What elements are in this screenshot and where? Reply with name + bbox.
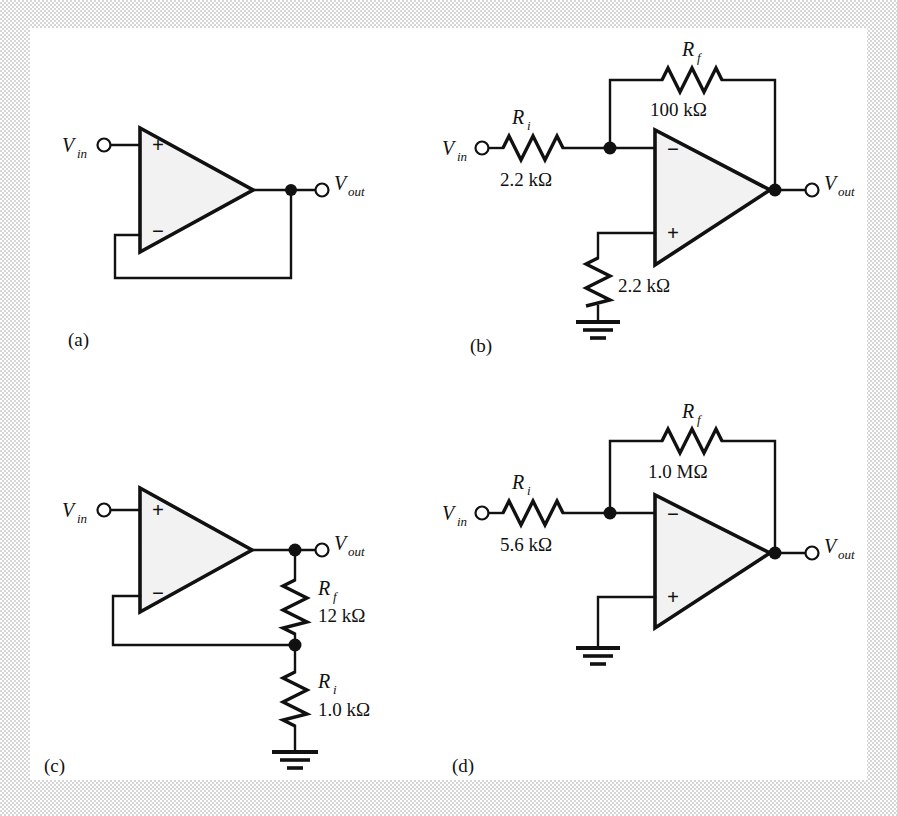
panel-b-inverting-pin-sign: − [667,137,679,161]
panel-b-resistor-ground[interactable] [586,258,610,306]
panel-b-rf-name: R [681,38,694,60]
panel-a-vin-terminal[interactable] [98,139,111,152]
panel-c-vout-sublabel: out [348,544,365,559]
panel-a-inverting-pin-sign: − [152,219,164,243]
panel-b-resistor-ri[interactable] [503,136,563,160]
panel-b-vin-label: V [442,137,457,159]
panel-d-caption: (d) [452,755,474,777]
panel-a-vin-sublabel: in [77,146,87,161]
panel-c-vin-sublabel: in [77,511,87,526]
panel-c-ri-name: R [317,670,330,692]
panel-b-output-node [769,184,782,197]
panel-c-inverting-pin-sign: − [152,581,164,605]
figure-root: V in + − V out (a) V [0,0,897,816]
panel-d-rf-subscript: f [697,412,703,427]
panel-c-rf-subscript: f [333,589,339,604]
panel-b-resistor-rf[interactable] [662,68,722,92]
panel-d-resistor-rf[interactable] [662,429,722,453]
panel-d-vin-sublabel: in [457,514,467,529]
panel-d-vout-sublabel: out [838,547,855,562]
panel-b-ground-icon [576,322,620,338]
panel-c-vin-terminal[interactable] [98,504,111,517]
panel-b-ri-name: R [511,106,524,128]
panel-b-vout-label: V [824,172,839,194]
panel-b-rf-subscript: f [697,50,703,65]
panel-c-caption: (c) [44,755,65,777]
panel-c-ri-subscript: i [333,682,337,697]
panel-c-resistor-rf[interactable] [283,580,307,634]
panel-c-vout-terminal[interactable] [316,544,329,557]
panel-b-rg-value: 2.2 kΩ [618,275,670,296]
panel-b-vin-terminal[interactable] [476,142,489,155]
panel-d-ri-value: 5.6 kΩ [500,534,552,555]
panel-d-vout-terminal[interactable] [806,547,819,560]
panel-a-vout-label: V [334,172,349,194]
panel-d-inverting-pin-sign: − [667,502,679,526]
panel-a-noninverting-pin-sign: + [152,133,164,157]
panel-c-non-inverting-amplifier: V in + − V out R f 12 kΩ [44,488,370,777]
panel-d-ri-subscript: i [527,483,531,498]
panel-b-vout-sublabel: out [838,184,855,199]
panel-c-rf-name: R [317,577,330,599]
panel-d-vout-label: V [824,535,839,557]
panel-b-caption: (b) [470,335,492,357]
panel-b-inverting-amplifier: V in R i 2.2 kΩ R f 100 kΩ [442,38,855,357]
panel-d-ri-name: R [511,471,524,493]
panel-c-ground-icon [272,752,318,768]
panel-c-rf-value: 12 kΩ [318,605,365,626]
panel-d-ground-icon [576,648,620,664]
panel-b-noninverting-pin-sign: + [667,221,679,245]
panel-d-resistor-ri[interactable] [503,501,563,525]
panel-c-resistor-ri[interactable] [283,672,307,726]
panel-d-inverting-amplifier: V in R i 5.6 kΩ R f 1.0 MΩ − + [442,400,855,777]
panel-d-rf-value: 1.0 MΩ [648,461,708,482]
panel-b-ri-value: 2.2 kΩ [500,169,552,190]
panel-a-caption: (a) [68,329,89,351]
panel-b-ri-subscript: i [527,118,531,133]
panel-c-vin-label: V [62,499,77,521]
panel-d-vin-terminal[interactable] [476,507,489,520]
panel-a-vout-terminal[interactable] [316,184,329,197]
panel-c-ri-value: 1.0 kΩ [318,699,370,720]
panel-b-vin-sublabel: in [457,149,467,164]
panel-d-output-node [769,547,782,560]
panel-d-noninverting-pin-sign: + [667,585,679,609]
panel-b-rf-value: 100 kΩ [650,99,707,120]
circuit-diagram-canvas: V in + − V out (a) V [0,0,897,816]
panel-a-vout-sublabel: out [348,184,365,199]
panel-d-vin-label: V [442,502,457,524]
panel-c-vout-label: V [334,532,349,554]
panel-d-rf-name: R [681,400,694,422]
panel-a-voltage-follower: V in + − V out (a) [62,128,365,351]
panel-b-vout-terminal[interactable] [806,184,819,197]
panel-c-noninverting-pin-sign: + [152,498,164,522]
panel-a-vin-label: V [62,134,77,156]
panel-d-noninverting-ground-wire [598,597,655,648]
panel-b-noninverting-input-wire [598,233,655,258]
